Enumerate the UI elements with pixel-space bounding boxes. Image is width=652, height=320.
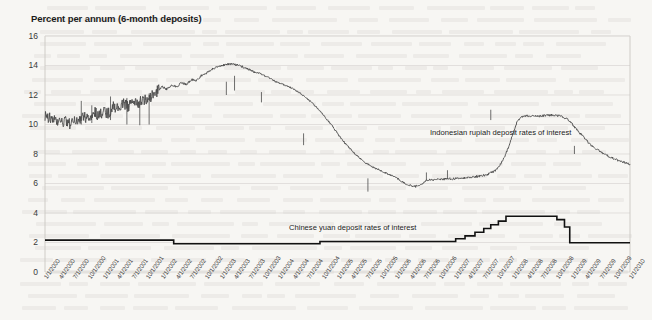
y-axis-tick-12: 12	[18, 90, 38, 100]
y-axis-tick-4: 4	[18, 208, 38, 218]
y-axis-tick-6: 6	[18, 178, 38, 188]
y-axis-tick-10: 10	[18, 119, 38, 129]
y-axis-tick-14: 14	[18, 60, 38, 70]
gridlines	[45, 36, 630, 272]
series-label-indonesian-rupiah: Indonesian rupiah deposit rates of inter…	[430, 128, 571, 137]
series-line-indonesian-rupiah	[45, 63, 630, 187]
y-axis-tick-8: 8	[18, 149, 38, 159]
y-axis-tick-2: 2	[18, 237, 38, 247]
y-axis-tick-16: 16	[18, 31, 38, 41]
y-axis-tick-0: 0	[18, 267, 38, 277]
chart-page: Percent per annum (6-month deposits) 024…	[0, 0, 652, 320]
series-label-chinese-yuan: Chinese yuan deposit rates of interest	[289, 223, 416, 232]
